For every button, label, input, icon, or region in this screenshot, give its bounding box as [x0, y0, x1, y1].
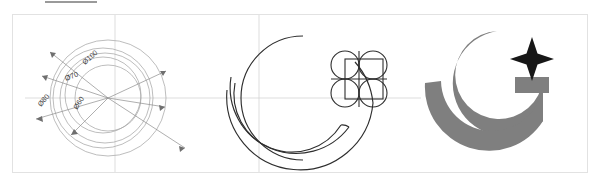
dim-label-d100: Ø100	[80, 48, 99, 66]
tail-arc	[341, 125, 349, 127]
final-logo-svg	[421, 15, 610, 172]
construction-outline-panel	[225, 15, 421, 172]
black-four-point-star	[510, 37, 554, 81]
dimension-diagram-svg: Ø100 Ø70 Ø80 Ø60	[25, 15, 225, 172]
construction-centerlines	[225, 15, 421, 172]
dim-label-d60: Ø60	[71, 95, 86, 111]
leader-d70b	[108, 98, 165, 107]
leader-d100b	[108, 71, 166, 98]
sheet-frame: Ø100 Ø70 Ø80 Ø60	[12, 14, 588, 173]
dimension-arrowheads	[36, 52, 185, 152]
dimension-leader-lines	[36, 52, 185, 148]
dim-label-d80: Ø80	[36, 92, 52, 108]
construction-outline-svg	[225, 15, 421, 172]
screenshot-canvas: Ø100 Ø70 Ø80 Ø60	[0, 0, 610, 187]
dimension-diagram-panel: Ø100 Ø70 Ø80 Ø60	[25, 15, 225, 172]
dim-label-d70: Ø70	[63, 69, 79, 82]
circle-inner-small	[65, 57, 141, 133]
final-logo-panel	[421, 15, 610, 172]
top-rule-divider	[45, 1, 97, 3]
inner-sweep-arc	[234, 83, 341, 152]
square-overlay	[331, 51, 387, 107]
centerlines	[25, 15, 225, 172]
